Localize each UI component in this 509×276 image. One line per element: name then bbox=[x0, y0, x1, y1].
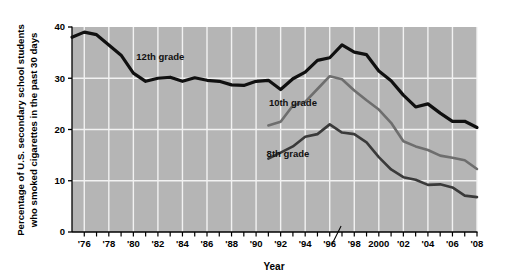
y-axis-title-line2: who smoked cigarettes in the past 30 day… bbox=[28, 33, 39, 229]
x-axis-tick-label: '02 bbox=[397, 238, 410, 249]
series-label-8th-grade: 8th grade bbox=[267, 148, 310, 159]
y-axis-tick-label: 20 bbox=[54, 124, 65, 135]
x-axis-tick-label: '06 bbox=[446, 238, 459, 249]
x-axis-title: Year bbox=[263, 261, 284, 272]
series-label-10th-grade: 10th grade bbox=[269, 97, 317, 108]
x-axis-tick-label: '90 bbox=[250, 238, 263, 249]
x-axis-tick-label: '98 bbox=[348, 238, 361, 249]
x-axis-tick-label: '84 bbox=[176, 238, 190, 249]
chart-figure: 010203040 '76'78'80'82'84'86'88'90'92'94… bbox=[0, 0, 509, 276]
x-axis-tick-label: '08 bbox=[471, 238, 484, 249]
x-axis-tick-label: 2000 bbox=[368, 238, 389, 249]
x-axis-tick-label: '78 bbox=[102, 238, 115, 249]
y-axis-tick-label: 40 bbox=[54, 21, 65, 32]
y-axis-tick-label: 10 bbox=[54, 175, 65, 186]
x-axis-tick-label: '92 bbox=[274, 238, 287, 249]
x-axis-tick-label: '86 bbox=[201, 238, 214, 249]
y-axis-title-line1: Percentage of U.S. secondary school stud… bbox=[15, 24, 26, 236]
series-label-12th-grade: 12th grade bbox=[136, 51, 184, 62]
x-axis-tick-label: '88 bbox=[225, 238, 238, 249]
y-axis-tick-label: 0 bbox=[60, 226, 65, 237]
x-axis-tick-label: '76 bbox=[78, 238, 91, 249]
x-axis-tick-label: '94 bbox=[299, 238, 313, 249]
x-axis-tick-label: '04 bbox=[421, 238, 435, 249]
x-axis-tick-label: '82 bbox=[151, 238, 164, 249]
y-axis-tick-label: 30 bbox=[54, 73, 65, 84]
smoking-prevalence-line-chart: 010203040 '76'78'80'82'84'86'88'90'92'94… bbox=[0, 0, 509, 276]
x-axis-tick-label: '80 bbox=[127, 238, 140, 249]
